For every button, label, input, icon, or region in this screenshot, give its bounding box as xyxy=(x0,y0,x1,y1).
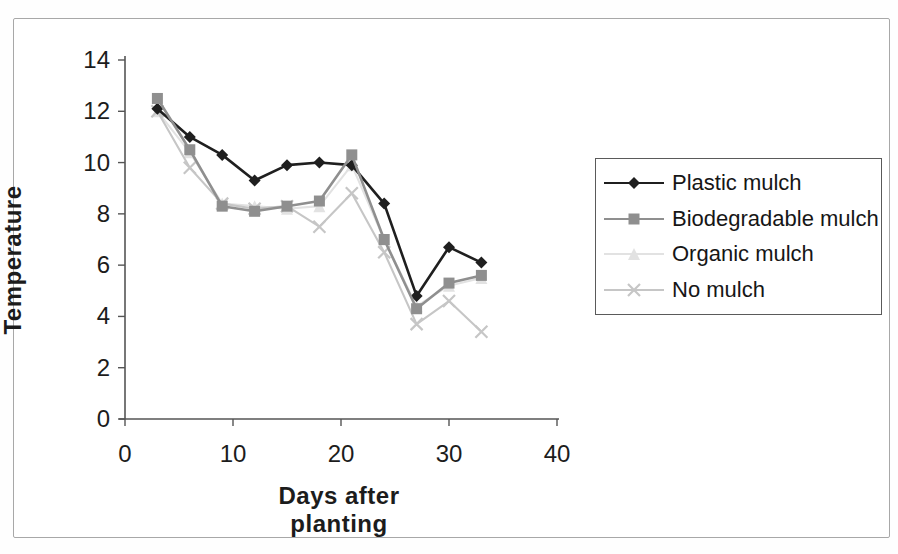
y-tick-label: 6 xyxy=(97,251,110,278)
data-point-marker xyxy=(313,157,325,169)
data-point-marker xyxy=(411,318,423,330)
y-tick-label: 2 xyxy=(97,354,110,381)
y-tick-label: 10 xyxy=(83,149,110,176)
y-tick-label: 14 xyxy=(83,46,110,73)
diamond-marker-icon xyxy=(602,172,668,194)
x-marker-icon xyxy=(602,279,668,301)
data-point-marker xyxy=(346,187,358,199)
data-point-marker xyxy=(184,144,195,155)
data-point-marker xyxy=(217,201,228,212)
x-tick-label: 0 xyxy=(118,440,131,467)
series-line-4 xyxy=(157,111,481,332)
x-axis-title: Days after planting xyxy=(228,482,450,538)
data-point-marker xyxy=(281,159,293,171)
square-marker-icon xyxy=(602,208,668,230)
legend-label: Organic mulch xyxy=(672,241,814,267)
legend-item-4: No mulch xyxy=(602,276,881,304)
legend: Plastic mulchBiodegradable mulchOrganic … xyxy=(595,158,882,315)
data-point-marker xyxy=(475,326,487,338)
legend-label: Biodegradable mulch xyxy=(672,206,879,232)
y-tick-label: 4 xyxy=(97,302,110,329)
y-axis-title: Temperature xyxy=(0,150,27,370)
x-tick-label: 30 xyxy=(436,440,463,467)
data-point-marker xyxy=(379,234,390,245)
x-tick-label: 40 xyxy=(544,440,571,467)
data-point-marker xyxy=(313,221,325,233)
data-point-marker xyxy=(476,270,487,281)
y-tick-label: 0 xyxy=(97,405,110,432)
data-point-marker xyxy=(184,162,196,174)
legend-item-3: Organic mulch xyxy=(602,240,881,268)
legend-item-2: Biodegradable mulch xyxy=(602,205,881,233)
data-point-marker xyxy=(475,257,487,269)
x-tick-label: 20 xyxy=(328,440,355,467)
data-point-marker xyxy=(249,206,260,217)
triangle-marker-icon xyxy=(602,243,668,265)
data-point-marker xyxy=(346,149,357,160)
data-point-marker xyxy=(411,303,422,314)
legend-label: No mulch xyxy=(672,277,765,303)
x-tick-label: 10 xyxy=(220,440,247,467)
scanned-chart-figure: 02468101214010203040 Temperature Days af… xyxy=(0,0,898,554)
y-tick-label: 12 xyxy=(83,97,110,124)
data-point-marker xyxy=(443,295,455,307)
data-point-marker xyxy=(152,93,163,104)
legend-label: Plastic mulch xyxy=(672,170,802,196)
data-point-marker xyxy=(444,278,455,289)
data-point-marker xyxy=(282,201,293,212)
legend-item-1: Plastic mulch xyxy=(602,169,881,197)
data-point-marker xyxy=(314,196,325,207)
y-tick-label: 8 xyxy=(97,200,110,227)
